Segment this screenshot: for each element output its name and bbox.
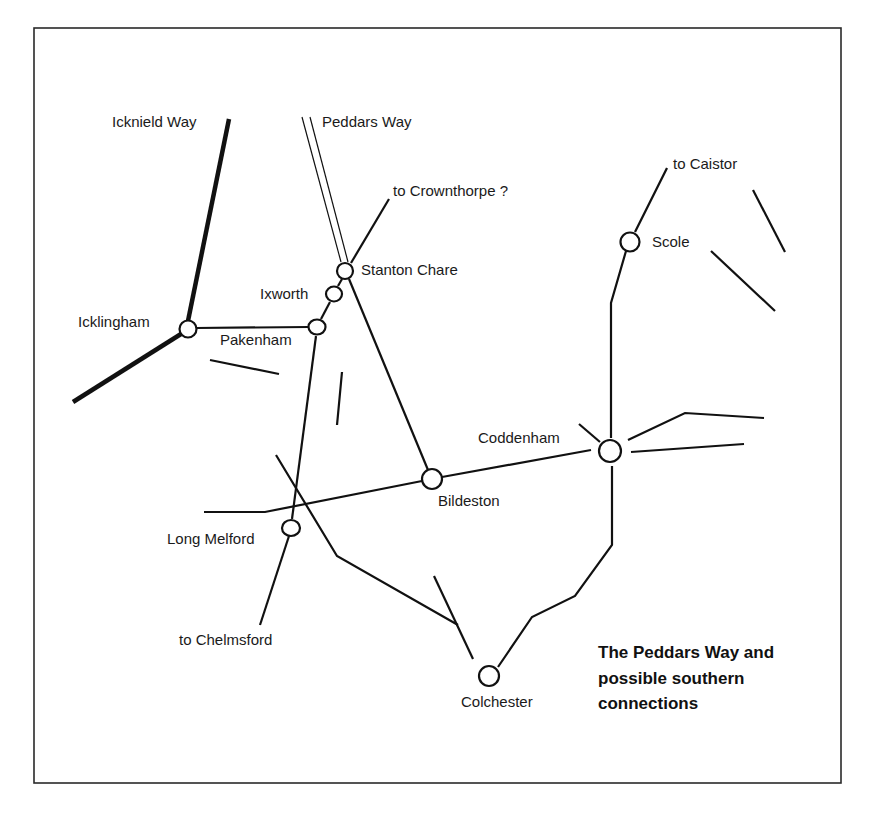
road-ixworth-stanton [338, 279, 342, 286]
road-to-caistor [635, 168, 667, 232]
road-coddenham-scole [611, 251, 626, 438]
town-marker-stanton-chare [337, 263, 353, 279]
label-coddenham: Coddenham [478, 429, 560, 447]
road-fragment-4 [711, 251, 775, 311]
label-long-melford: Long Melford [167, 530, 255, 548]
label-colchester: Colchester [461, 693, 533, 711]
road-colchester-coddenham [498, 466, 612, 667]
road-pakenham-ixworth [321, 302, 330, 319]
road-to-crownthorpe [351, 199, 389, 263]
town-marker-pakenham [309, 320, 326, 335]
town-marker-bildeston [422, 469, 442, 489]
road-west-bildeston [204, 481, 422, 512]
road-to-chelmsford [260, 536, 289, 625]
icknield-way-route [73, 119, 229, 402]
label-pakenham: Pakenham [220, 331, 292, 349]
road-fragment-3 [753, 190, 785, 252]
road-bildeston-coddenham [442, 450, 591, 477]
label-ixworth: Ixworth [260, 285, 308, 303]
town-marker-ixworth [326, 287, 342, 302]
road-coddenham-east-1 [628, 413, 764, 440]
label-icklingham: Icklingham [78, 313, 150, 331]
town-marker-colchester [479, 666, 499, 686]
road-pakenham-long-melford [292, 336, 316, 519]
road-fragment-2 [337, 372, 342, 425]
label-to-caistor: to Caistor [673, 155, 737, 173]
map-title-line-2: possible southern [598, 666, 774, 692]
road-fragment-colchester [434, 576, 473, 659]
label-peddars-way: Peddars Way [322, 113, 411, 131]
map-title: The Peddars Way and possible southern co… [598, 640, 774, 717]
label-to-chelmsford: to Chelmsford [179, 631, 272, 649]
map-title-line-1: The Peddars Way and [598, 640, 774, 666]
label-to-crownthorpe: to Crownthorpe ? [393, 182, 508, 200]
road-coddenham-stub [579, 424, 600, 442]
town-marker-coddenham [599, 440, 621, 462]
peddars-way-route [302, 117, 348, 262]
label-stanton-chare: Stanton Chare [361, 261, 458, 279]
label-scole: Scole [652, 233, 690, 251]
road-fragment-1 [210, 360, 279, 374]
label-bildeston: Bildeston [438, 492, 500, 510]
road-icklingham-pakenham [196, 327, 309, 328]
road-coddenham-east-2 [631, 444, 744, 452]
town-marker-icklingham [180, 321, 197, 338]
town-marker-long-melford [282, 520, 300, 536]
road-stanton-bildeston [349, 279, 428, 470]
town-marker-scole [621, 233, 640, 252]
label-icknield-way: Icknield Way [112, 113, 196, 131]
map-title-line-3: connections [598, 691, 774, 717]
